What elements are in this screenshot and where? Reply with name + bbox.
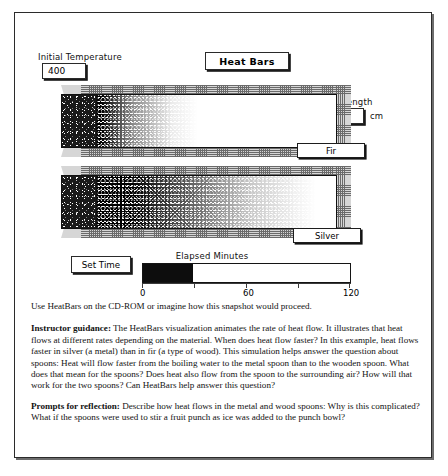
initial-temperature-label: Initial Temperature (38, 52, 122, 62)
axis-tick-60: 60 (243, 288, 254, 298)
material-tag-silver[interactable]: Silver (293, 228, 361, 243)
material-tag-fir[interactable]: Fir (297, 143, 365, 158)
heat-source-fir (61, 94, 97, 148)
bar-length-unit: cm (370, 111, 383, 121)
bar-top-face (70, 166, 351, 175)
axis-tick-120: 120 (343, 288, 359, 298)
heat-bars-title-button[interactable]: Heat Bars (205, 52, 289, 70)
heat-source-silver (61, 175, 97, 229)
axis-tick-0: 0 (140, 288, 145, 298)
lead-paragraph: Use HeatBars on the CD-ROM or imagine ho… (31, 301, 421, 312)
elapsed-minutes-slider[interactable] (142, 263, 351, 283)
bar-interior-silver (79, 175, 337, 229)
explanatory-text: Use HeatBars on the CD-ROM or imagine ho… (31, 301, 421, 433)
prompts-heading: Prompts for reflection: (31, 401, 120, 411)
prompts-paragraph: Prompts for reflection: Describe how hea… (31, 401, 421, 424)
set-time-button[interactable]: Set Time (71, 256, 131, 273)
instructor-guidance-heading: Instructor guidance: (31, 323, 111, 333)
heat-bars-simulation: Initial Temperature 400 Heat Bars Bar Le… (15, 13, 433, 291)
elapsed-minutes-fill (143, 264, 193, 282)
instructor-guidance-paragraph: Instructor guidance: The HeatBars visual… (31, 323, 421, 391)
document-page: Initial Temperature 400 Heat Bars Bar Le… (14, 12, 432, 458)
bar-interior-fir (79, 94, 337, 148)
heat-gradient-silver (80, 176, 316, 228)
elapsed-minutes-label: Elapsed Minutes (176, 251, 249, 261)
heat-gradient-fir (80, 95, 198, 147)
bar-top-face (70, 85, 351, 94)
instructor-guidance-body: The HeatBars visualization animates the … (31, 323, 418, 390)
initial-temperature-input[interactable]: 400 (42, 63, 86, 79)
